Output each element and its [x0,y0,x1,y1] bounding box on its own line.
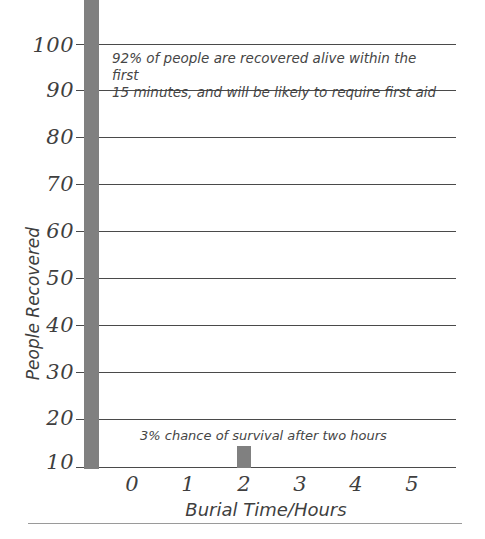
y-tick-label: 20 [28,408,74,429]
x-axis-tick-labels: 0 1 2 3 4 5 [76,472,456,502]
y-tick-label: 10 [28,452,74,473]
annotation-recovered-alive: 92% of people are recovered alive within… [112,50,442,101]
x-tick-label: 2 [227,472,261,496]
y-tick-label: 80 [28,127,74,148]
x-tick-label: 4 [339,472,373,496]
gridline-80 [76,137,456,138]
x-tick-label: 5 [395,472,429,496]
annotation-survival-chance: 3% chance of survival after two hours [140,428,390,444]
gridline-20 [76,419,456,420]
y-tick-label: 100 [28,35,74,56]
y-axis-title: People Recovered [24,219,43,389]
gridline-50 [76,278,456,279]
x-axis-title: Burial Time/Hours [76,500,456,520]
gridline-60 [76,231,456,232]
gridline-40 [76,325,456,326]
footer-rule [28,523,462,524]
x-tick-label: 0 [115,472,149,496]
y-tick-label: 90 [28,80,74,101]
bar-offscale [84,0,99,469]
x-tick-label: 3 [283,472,317,496]
gridline-100 [76,44,456,45]
bar-chart-figure: 100 90 80 70 60 50 40 30 20 10 92% of pe… [0,0,485,539]
gridline-70 [76,184,456,185]
y-tick-label: 70 [28,174,74,195]
x-axis-baseline [76,467,456,468]
x-tick-label: 1 [171,472,205,496]
gridline-30 [76,372,456,373]
bar-two-hours [237,446,251,468]
